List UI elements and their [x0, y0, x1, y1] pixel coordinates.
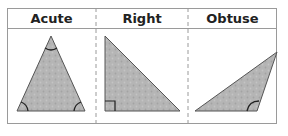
obtuse-triangle	[195, 52, 277, 111]
acute-triangle	[17, 36, 85, 111]
right-triangle	[105, 36, 180, 111]
triangles-figure	[0, 0, 288, 136]
